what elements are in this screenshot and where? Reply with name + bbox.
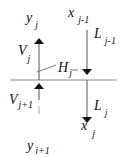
- label-x-j: xj: [80, 118, 95, 139]
- label-V-j-plus-1: Vj+1: [9, 92, 33, 110]
- label-y-i-plus-1: yi+1: [25, 138, 50, 156]
- enthalpy-pointer-line: [37, 65, 56, 72]
- label-x-j-minus-1: xj-1: [67, 5, 89, 25]
- label-L-j-minus-1: Lj-1: [93, 26, 116, 46]
- label-L-j: Lj: [93, 98, 108, 118]
- label-y-j: yj: [24, 10, 38, 30]
- stage-diagram: yj xj-1 Lj-1 Vj Hj Vj+1 Lj xj yi+1: [0, 0, 125, 157]
- label-V-j: Vj: [18, 43, 31, 64]
- label-H-j: Hj: [57, 60, 72, 78]
